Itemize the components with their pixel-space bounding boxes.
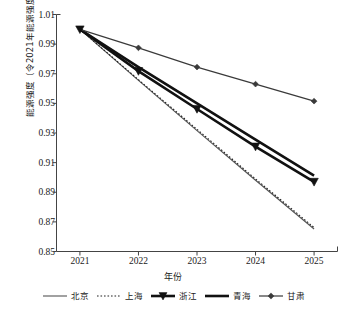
- legend-key-line-thick-solid: [204, 291, 230, 301]
- energy-intensity-line-chart: 能源强度（令2021年能源强度=1） 0.850.870.890.910.930…: [0, 0, 346, 313]
- plot-area: [0, 0, 346, 313]
- x-axis-title: 年份: [0, 270, 346, 283]
- legend-key-line-thin-diamond: [258, 291, 284, 301]
- legend-key-line-solid-thin: [42, 291, 68, 301]
- legend-item-上海[interactable]: 上海: [96, 291, 143, 301]
- x-axis-tick-label: 2021: [70, 256, 89, 266]
- legend-key-line-thick-triangle: [150, 291, 176, 301]
- legend-label: 北京: [71, 292, 89, 301]
- legend-label: 上海: [125, 292, 143, 301]
- x-axis-tick-label: 2024: [246, 256, 265, 266]
- chart-legend: 北京上海浙江青海甘肃: [0, 291, 346, 301]
- x-axis-tick-label: 2022: [129, 256, 148, 266]
- series-上海: [80, 29, 314, 227]
- legend-item-甘肃[interactable]: 甘肃: [258, 291, 305, 301]
- legend-label: 甘肃: [287, 292, 305, 301]
- legend-key-line-dotted: [96, 291, 122, 301]
- legend-label: 浙江: [179, 292, 197, 301]
- legend-item-北京[interactable]: 北京: [42, 291, 89, 301]
- legend-item-青海[interactable]: 青海: [204, 291, 251, 301]
- legend-label: 青海: [233, 292, 251, 301]
- series-青海: [80, 29, 314, 175]
- x-axis-tick-label: 2025: [305, 256, 324, 266]
- axis-spines: [57, 15, 338, 252]
- x-axis-tick-label: 2023: [188, 256, 207, 266]
- legend-item-浙江[interactable]: 浙江: [150, 291, 197, 301]
- series-甘肃: [80, 29, 317, 104]
